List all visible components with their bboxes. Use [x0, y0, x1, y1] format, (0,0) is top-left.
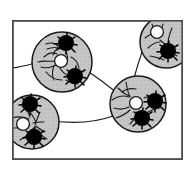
- dark-cell-soma: [26, 129, 42, 145]
- schematic-diagram: [0, 0, 191, 170]
- pale-cell: [17, 118, 30, 131]
- cluster-center-right: [110, 76, 166, 132]
- dark-cell-soma: [147, 93, 163, 109]
- pale-cell: [130, 97, 143, 110]
- dark-cell-soma: [134, 110, 150, 126]
- dark-cell-soma: [22, 96, 38, 112]
- dark-cell-soma: [160, 43, 176, 59]
- figure-panel: a: [0, 0, 191, 170]
- pale-cell: [55, 55, 68, 68]
- figure-canvas: [0, 0, 191, 170]
- dark-cell-soma: [67, 68, 83, 84]
- pale-cell: [151, 26, 164, 39]
- cluster-top-left: [32, 32, 92, 92]
- dark-cell-soma: [58, 35, 74, 51]
